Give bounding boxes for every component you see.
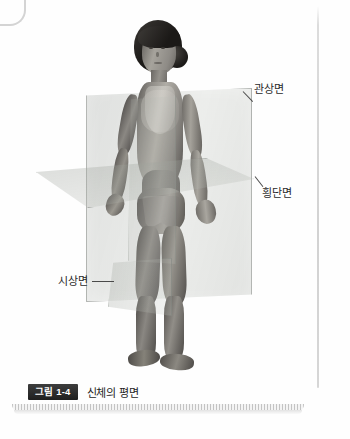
figure-number-badge: 그림 1-4 bbox=[28, 384, 78, 400]
label-transverse-plane: 횡단면 bbox=[262, 188, 291, 199]
transverse-leader-line bbox=[255, 176, 264, 187]
hair-fringe bbox=[138, 26, 180, 48]
figure-caption-text: 신체의 평면 bbox=[87, 384, 139, 400]
sagittal-leader-line bbox=[92, 281, 114, 282]
mouth bbox=[154, 62, 162, 64]
nose bbox=[156, 52, 159, 57]
eye-left bbox=[149, 47, 153, 49]
body-planes-illustration: 관상면 횡단면 시상면 bbox=[0, 0, 318, 372]
label-coronal-plane: 관상면 bbox=[254, 84, 283, 95]
foot-left bbox=[127, 348, 161, 368]
sagittal-plane-shape bbox=[108, 258, 172, 316]
figure-caption: 그림 1-4 신체의 평면 bbox=[28, 384, 138, 400]
label-sagittal-plane: 시상면 bbox=[58, 276, 87, 287]
page-frame-bottom-shadow bbox=[14, 410, 302, 414]
foot-right bbox=[159, 352, 194, 371]
textbook-figure-page: 관상면 횡단면 시상면 그림 1-4 신체의 평면 bbox=[0, 0, 350, 439]
eye-right bbox=[161, 47, 165, 49]
